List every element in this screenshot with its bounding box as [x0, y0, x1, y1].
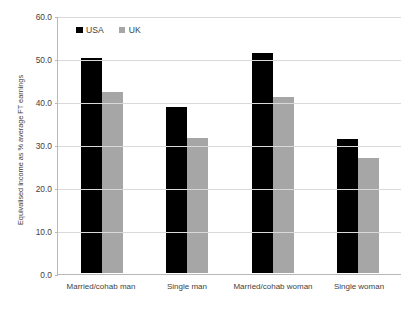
legend-swatch-icon — [76, 27, 83, 34]
gridline — [58, 189, 401, 190]
legend-swatch-icon — [119, 27, 126, 34]
y-axis-tick-label: 60.0 — [36, 13, 52, 21]
y-axis-tick-mark — [55, 189, 58, 190]
bar-usa — [166, 107, 187, 273]
y-axis-tick-mark — [55, 60, 58, 61]
bar-uk — [273, 97, 294, 273]
x-axis-category-label: Single woman — [316, 281, 402, 292]
y-axis-tick-label: 50.0 — [36, 56, 52, 64]
bar-chart: Equivalised income as % average FT earni… — [0, 0, 413, 320]
bar-uk — [358, 158, 379, 273]
y-axis-tick-mark — [55, 103, 58, 104]
x-axis-category-label: Married/cohab man — [58, 281, 144, 292]
chart-legend: USAUK — [76, 25, 141, 35]
bar-group — [59, 17, 145, 273]
bar-uk — [187, 138, 208, 273]
gridline — [58, 146, 401, 147]
y-axis-tick-label: 40.0 — [36, 99, 52, 107]
y-axis-tick-mark — [55, 275, 58, 276]
y-axis-tick-label: 10.0 — [36, 228, 52, 236]
x-axis-category-label: Married/cohab woman — [230, 281, 316, 292]
bar-groups — [59, 17, 401, 273]
y-axis-tick-mark — [55, 232, 58, 233]
bar-usa — [337, 139, 358, 273]
y-axis-tick-labels: 0.010.020.030.040.050.060.0 — [26, 10, 56, 275]
bar-usa — [252, 53, 273, 273]
bar-group — [316, 17, 402, 273]
y-axis-tick-label: 30.0 — [36, 142, 52, 150]
gridline — [58, 17, 401, 18]
legend-label: UK — [129, 25, 141, 35]
y-axis-tick-label: 20.0 — [36, 185, 52, 193]
bar-usa — [81, 58, 102, 273]
x-axis-category-label: Single man — [144, 281, 230, 292]
y-axis-tick-label: 0.0 — [40, 271, 52, 279]
gridline — [58, 232, 401, 233]
y-axis-tick-mark — [55, 17, 58, 18]
y-axis-tick-mark — [55, 146, 58, 147]
gridline — [58, 60, 401, 61]
bar-group — [145, 17, 231, 273]
gridline — [58, 103, 401, 104]
bar-uk — [102, 92, 123, 273]
plot-area — [57, 17, 401, 275]
x-axis-category-labels: Married/cohab manSingle manMarried/cohab… — [58, 281, 402, 292]
legend-item-uk: UK — [119, 25, 141, 35]
legend-label: USA — [86, 25, 104, 35]
legend-item-usa: USA — [76, 25, 104, 35]
bar-group — [230, 17, 316, 273]
